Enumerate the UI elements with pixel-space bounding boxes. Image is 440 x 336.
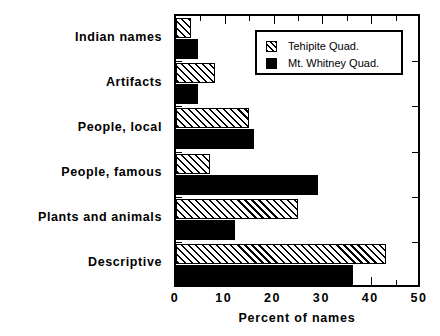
y-axis-tick <box>412 197 418 198</box>
y-tick-label-artifacts: Artifacts <box>106 76 162 89</box>
x-axis-tick <box>322 277 323 285</box>
legend-label: Mt. Whitney Quad. <box>288 58 379 69</box>
bar-descriptive-mt-whitney-quad <box>176 265 353 285</box>
legend-entry-mt-whitney-quad: Mt. Whitney Quad. <box>266 55 379 71</box>
x-axis-tick-top <box>396 16 397 21</box>
y-tick-label-indian-names: Indian names <box>75 30 162 43</box>
y-axis-tick <box>412 61 418 62</box>
x-axis-tick-top <box>225 16 226 24</box>
legend-label: Tehipite Quad. <box>288 41 359 52</box>
chart-legend: Tehipite Quad.Mt. Whitney Quad. <box>255 30 403 75</box>
x-tick-label: 10 <box>215 292 232 305</box>
x-axis-tick <box>396 280 397 285</box>
x-axis-tick <box>200 280 201 285</box>
bar-indian-names-mt-whitney-quad <box>176 39 198 59</box>
bar-plants-and-animals-mt-whitney-quad <box>176 220 235 240</box>
y-axis-tick <box>176 61 182 62</box>
x-tick-label: 40 <box>362 292 379 305</box>
x-axis-tick <box>371 277 372 285</box>
x-axis-tick-top <box>347 16 348 21</box>
y-tick-label-people-famous: People, famous <box>61 166 162 179</box>
bar-artifacts-tehipite-quad <box>176 63 215 83</box>
x-axis-tick <box>347 280 348 285</box>
x-axis-tick-top <box>274 16 275 24</box>
x-tick-label: 30 <box>313 292 330 305</box>
y-axis-tick <box>176 152 182 153</box>
x-axis-tick-top <box>322 16 323 24</box>
legend-swatch-solid-icon <box>266 58 277 69</box>
y-tick-label-plants-and-animals: Plants and animals <box>38 211 162 224</box>
bar-people-local-tehipite-quad <box>176 108 249 128</box>
y-tick-label-people-local: People, local <box>78 121 162 134</box>
bar-chart-figure: Indian namesArtifactsPeople, localPeople… <box>0 0 440 336</box>
x-axis-tick <box>298 280 299 285</box>
bar-artifacts-mt-whitney-quad <box>176 84 198 104</box>
x-axis-tick-top <box>298 16 299 21</box>
y-tick-label-descriptive: Descriptive <box>88 256 162 269</box>
x-tick-label: 20 <box>264 292 281 305</box>
x-axis-tick-top <box>249 16 250 21</box>
y-axis-tick <box>176 106 182 107</box>
legend-swatch-hatched-icon <box>266 41 277 52</box>
x-axis-tick <box>274 277 275 285</box>
x-axis-tick-top <box>371 16 372 24</box>
legend-entry-tehipite-quad: Tehipite Quad. <box>266 38 359 54</box>
x-tick-label: 0 <box>171 292 180 305</box>
y-axis-tick <box>412 242 418 243</box>
y-axis-tick <box>412 152 418 153</box>
bar-indian-names-tehipite-quad <box>176 18 191 38</box>
bar-descriptive-tehipite-quad <box>176 244 386 264</box>
y-axis-tick <box>176 242 182 243</box>
bar-people-famous-mt-whitney-quad <box>176 175 318 195</box>
y-axis-tick <box>412 106 418 107</box>
x-tick-label: 50 <box>410 292 427 305</box>
bar-people-famous-tehipite-quad <box>176 154 210 174</box>
x-axis-tick <box>225 277 226 285</box>
bar-plants-and-animals-tehipite-quad <box>176 199 298 219</box>
y-axis-tick <box>176 197 182 198</box>
y-axis-category-labels: Indian namesArtifactsPeople, localPeople… <box>0 14 168 287</box>
x-axis-tick <box>249 280 250 285</box>
x-axis-title: Percent of names <box>174 312 420 325</box>
bar-people-local-mt-whitney-quad <box>176 129 254 149</box>
x-axis-tick-top <box>200 16 201 21</box>
